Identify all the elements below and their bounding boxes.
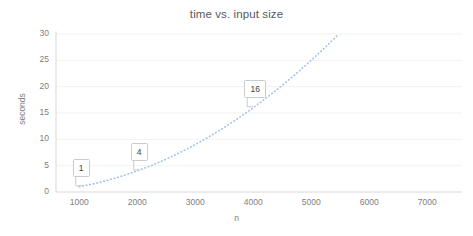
- gridlines-group: [56, 34, 462, 166]
- callout-tail: [247, 98, 253, 107]
- x-tick-label: 5000: [288, 197, 334, 207]
- x-tick-label: 7000: [404, 197, 450, 207]
- data-label-callout: 16: [244, 80, 266, 98]
- axis-lines-group: [56, 32, 462, 192]
- data-label-callout: 4: [131, 143, 148, 161]
- y-tick-label: 30: [23, 28, 49, 38]
- series-line-group: [79, 34, 339, 187]
- data-label-callout: 1: [73, 159, 90, 177]
- x-tick-label: 6000: [346, 197, 392, 207]
- chart-container: time vs. input size 051015202530 1000200…: [0, 0, 473, 236]
- y-axis-title: seconds: [17, 74, 27, 144]
- y-tick-label: 5: [23, 160, 49, 170]
- series-line-0: [79, 34, 339, 187]
- callout-tails-group: [76, 98, 254, 186]
- callout-tail: [76, 177, 82, 186]
- y-tick-label: 0: [23, 186, 49, 196]
- x-tick-label: 1000: [56, 197, 102, 207]
- x-tick-label: 4000: [230, 197, 276, 207]
- x-axis-title: n: [0, 213, 473, 223]
- y-tick-label: 25: [23, 54, 49, 64]
- x-tick-label: 2000: [114, 197, 160, 207]
- x-tick-label: 3000: [172, 197, 218, 207]
